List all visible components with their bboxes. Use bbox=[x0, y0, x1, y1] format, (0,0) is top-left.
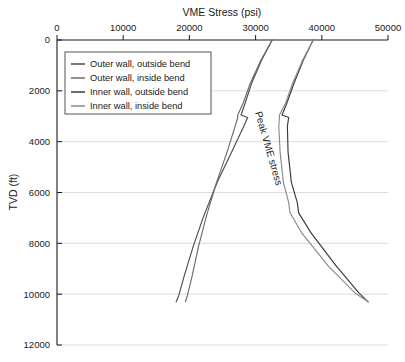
x-tick-label: 10000 bbox=[110, 22, 136, 33]
x-axis-title: VME Stress (psi) bbox=[183, 6, 262, 18]
y-tick-label: 10000 bbox=[24, 289, 50, 300]
x-tick-label: 20000 bbox=[176, 22, 202, 33]
y-tick-label: 2000 bbox=[29, 85, 50, 96]
chart-legend[interactable]: Outer wall, outside bendOuter wall, insi… bbox=[65, 52, 211, 114]
x-tick-label: 50000 bbox=[375, 22, 401, 33]
legend-label[interactable]: Outer wall, outside bend bbox=[90, 59, 190, 69]
y-axis-title: TVD (ft) bbox=[7, 174, 19, 211]
y-tick-label: 6000 bbox=[29, 187, 50, 198]
y-tick-label: 0 bbox=[45, 34, 50, 45]
x-tick-label: 30000 bbox=[242, 22, 268, 33]
chart-canvas: 01000020000300004000050000 0200040006000… bbox=[0, 0, 405, 362]
y-tick-label: 4000 bbox=[29, 136, 50, 147]
legend-label[interactable]: Inner wall, inside bend bbox=[90, 101, 183, 111]
x-tick-label: 40000 bbox=[309, 22, 335, 33]
vme-stress-chart: 01000020000300004000050000 0200040006000… bbox=[0, 0, 405, 362]
legend-label[interactable]: Outer wall, inside bend bbox=[90, 73, 185, 83]
y-tick-label: 8000 bbox=[29, 238, 50, 249]
y-tick-label: 12000 bbox=[24, 339, 50, 350]
legend-label[interactable]: Inner wall, outside bend bbox=[90, 87, 188, 97]
x-tick-label: 0 bbox=[54, 22, 59, 33]
